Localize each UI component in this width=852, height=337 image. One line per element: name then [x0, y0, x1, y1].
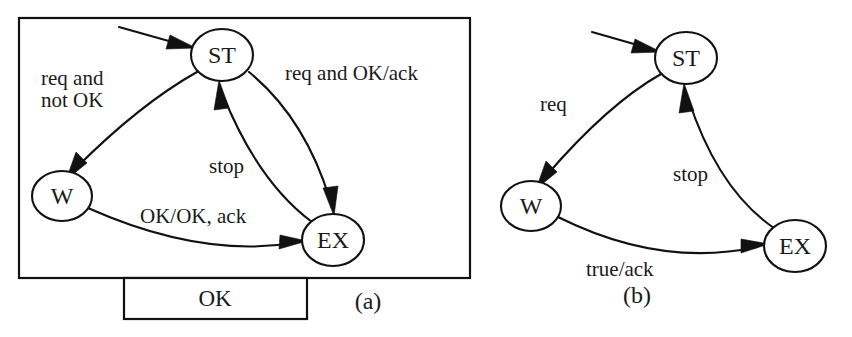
panel-a-state-st: ST	[191, 29, 253, 81]
panel-a-state-w: W	[32, 171, 92, 221]
panel-b-state-w-label: W	[520, 193, 543, 219]
panel-a-state-ex: EX	[302, 214, 364, 266]
panel-a: OK req and not OK req and OK/ack	[19, 18, 470, 319]
panel-a-transition-ex-st: stop	[209, 80, 312, 222]
panel-b-state-ex: EX	[764, 220, 826, 272]
panel-a-transition-st-ex-label: req and OK/ack	[285, 61, 418, 85]
panel-b-transition-w-ex: true/ack	[558, 217, 769, 281]
panel-a-transition-st-ex: req and OK/ack	[249, 61, 418, 216]
figure-root: OK req and not OK req and OK/ack	[0, 0, 852, 337]
panel-b-transition-ex-st-label: stop	[673, 162, 708, 186]
panel-b-transition-st-w-line	[546, 74, 661, 176]
panel-a-state-ex-label: EX	[317, 227, 349, 253]
panel-a-transition-st-w-label-line2: not OK	[41, 88, 103, 112]
panel-a-transition-ex-st-label: stop	[209, 154, 244, 178]
panel-b-transition-ex-st-head	[679, 83, 694, 113]
panel-b-state-st: ST	[655, 32, 717, 84]
panel-b-initial-arrow	[592, 32, 661, 53]
panel-b-transition-st-w: req	[536, 74, 661, 189]
panel-b-transition-w-ex-line	[558, 217, 757, 253]
panel-b-state-w: W	[501, 181, 561, 231]
panel-a-initial-arrow	[119, 27, 196, 49]
panel-b-transition-st-w-label: req	[540, 92, 567, 116]
panel-b: req true/ack stop ST W	[501, 32, 826, 308]
panel-a-caption: (a)	[355, 288, 382, 314]
panel-a-port-label: OK	[198, 286, 232, 311]
panel-a-transition-st-w: req and not OK	[41, 66, 197, 180]
panel-a-transition-w-ex: OK/OK, ack	[88, 204, 307, 249]
panel-a-transition-ex-st-head	[214, 80, 229, 110]
panel-a-transition-w-ex-label: OK/OK, ack	[140, 204, 247, 228]
panel-b-caption: (b)	[623, 282, 651, 308]
panel-a-state-w-label: W	[51, 183, 74, 209]
panel-a-transition-st-ex-head	[323, 186, 338, 216]
panel-a-transition-st-w-label-line1: req and	[41, 66, 104, 90]
panel-a-transition-st-ex-line	[249, 72, 330, 200]
panel-b-transition-w-ex-label: true/ack	[586, 257, 654, 281]
panel-b-state-st-label: ST	[672, 45, 700, 71]
panel-b-transition-ex-st: stop	[673, 83, 774, 228]
state-machine-figure: OK req and not OK req and OK/ack	[0, 0, 852, 337]
panel-b-state-ex-label: EX	[779, 233, 811, 259]
panel-a-state-st-label: ST	[208, 42, 236, 68]
